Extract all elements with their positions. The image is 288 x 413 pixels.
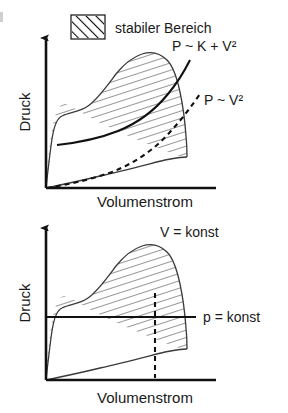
legend: stabiler Bereich xyxy=(71,15,212,39)
bottom-chart-x-axis-label: Volumenstrom xyxy=(97,389,193,406)
bottom-annotation-p-konst: p = konst xyxy=(203,309,260,325)
edge-artifact-mark xyxy=(0,12,3,22)
legend-label-stabiler-bereich: stabiler Bereich xyxy=(115,20,212,36)
legend-swatch-fill xyxy=(72,16,104,38)
top-annotation-p-v2: P ~ V² xyxy=(204,92,243,108)
bottom-stable-region-fill xyxy=(40,230,200,388)
bottom-chart: Druck Volumenstrom V = konst p = konst xyxy=(16,224,260,406)
top-annotation-p-k-plus-v2: P ~ K + V² xyxy=(172,38,237,54)
bottom-annotation-v-konst: V = konst xyxy=(160,224,219,240)
pump-characteristic-figure: Druck Volumenstrom P ~ K + V² P ~ V² sta… xyxy=(0,0,288,413)
bottom-stable-region-lower-outline xyxy=(46,349,187,380)
top-chart-y-axis-label: Druck xyxy=(16,92,33,132)
top-chart-x-axis-label: Volumenstrom xyxy=(97,193,193,210)
top-chart: Druck Volumenstrom P ~ K + V² P ~ V² xyxy=(16,38,243,210)
figure-container: Druck Volumenstrom P ~ K + V² P ~ V² sta… xyxy=(0,0,288,413)
bottom-chart-y-axis-label: Druck xyxy=(16,283,33,323)
